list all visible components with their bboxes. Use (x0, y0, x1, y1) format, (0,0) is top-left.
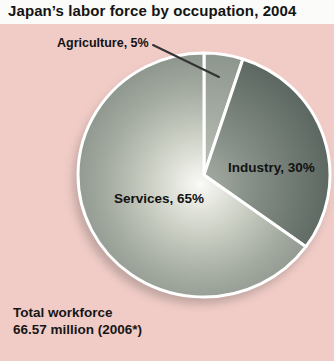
pie-label-agriculture: Agriculture, 5% (57, 36, 149, 50)
total-workforce-line1: Total workforce (13, 304, 142, 321)
pie-label-services: Services, 65% (114, 191, 204, 206)
total-workforce-line2: 66.57 million (2006*) (13, 321, 142, 338)
pie-label-industry: Industry, 30% (228, 160, 315, 175)
total-workforce-note: Total workforce 66.57 million (2006*) (13, 304, 142, 338)
infographic: Japan’s labor force by occupation, 2004 … (0, 0, 334, 361)
